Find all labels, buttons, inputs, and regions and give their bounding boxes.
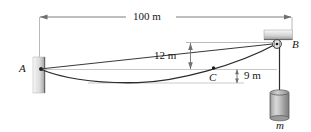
arrowhead-9m-top-icon	[235, 70, 239, 75]
ceiling-support-b	[264, 30, 293, 40]
cable-statics-figure: 100 m 12 m 9 m A B C m	[0, 0, 311, 132]
wall-block	[33, 57, 45, 93]
mass-label: m	[276, 120, 284, 131]
dimension-label-9m: 9 m	[244, 70, 261, 81]
cylinder-body	[270, 93, 289, 119]
dimension-9m	[235, 70, 239, 84]
point-label-a: A	[19, 63, 26, 74]
arrowhead-right-icon	[284, 15, 292, 20]
arrowhead-9m-bottom-icon	[235, 78, 239, 83]
arrowhead-12m-top-icon	[188, 43, 193, 50]
point-label-b: B	[292, 39, 299, 50]
cylinder-top-ellipse	[270, 90, 289, 95]
dimension-label-12m: 12 m	[154, 50, 176, 61]
arrowhead-12m-bottom-icon	[188, 62, 193, 69]
anchor-point-a-dot	[39, 67, 43, 71]
mass-cylinder	[270, 90, 289, 121]
dimension-12m	[186, 43, 274, 70]
dimension-label-100m: 100 m	[133, 11, 161, 22]
wall-support-a	[33, 57, 45, 93]
point-label-c: C	[209, 72, 216, 83]
point-c-dot	[212, 66, 215, 69]
pulley-axle-dot	[276, 43, 279, 46]
ceiling-block	[264, 30, 293, 40]
arrowhead-left-icon	[40, 15, 48, 20]
